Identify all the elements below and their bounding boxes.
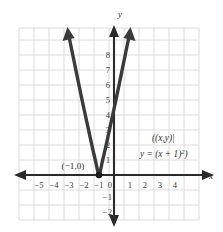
x-tick-label: 3	[158, 180, 162, 190]
y-tick-label: 6	[106, 80, 111, 90]
x-tick-label: 1	[128, 180, 132, 190]
y-tick-label: −2	[103, 207, 112, 217]
y-tick-label: 5	[106, 95, 110, 105]
x-tick-label: −3	[64, 180, 73, 190]
coordinate-plane-svg: y x −5 −4 −3 −2 −1 0 1 2 3 4 8 7 6 5 4 3…	[0, 0, 223, 232]
y-axis-label: y	[117, 9, 122, 19]
y-tick-label: 4	[106, 110, 111, 120]
vertex-point-marker	[96, 172, 103, 179]
y-tick-label: 7	[106, 65, 111, 75]
graph-figure: y x −5 −4 −3 −2 −1 0 1 2 3 4 8 7 6 5 4 3…	[0, 0, 223, 232]
annotation-line-1: ((x,y)|	[152, 133, 175, 144]
x-tick-label: 2	[143, 180, 147, 190]
x-tick-label: 0	[108, 180, 112, 190]
y-tick-label: −1	[103, 192, 112, 202]
y-tick-label: 1	[106, 155, 110, 165]
x-tick-label: −5	[34, 180, 43, 190]
annotation-line-2: y = (x + 1)2)	[139, 148, 188, 160]
annotation-equation-tail: )	[183, 149, 187, 160]
x-axis-label: x	[208, 171, 213, 181]
x-tick-label: −1	[94, 180, 103, 190]
y-tick-label: 8	[106, 50, 110, 60]
x-tick-label: −4	[49, 180, 59, 190]
annotation-equation-base: y = (x + 1)	[139, 149, 181, 160]
x-tick-label: −2	[79, 180, 88, 190]
x-tick-label: 4	[173, 180, 178, 190]
vertex-point-label: (−1,0)	[62, 161, 85, 171]
